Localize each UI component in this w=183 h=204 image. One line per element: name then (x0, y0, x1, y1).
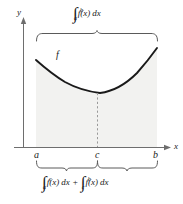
top-integral-expression: ∫ b a f(x)dx (73, 8, 101, 21)
curve-label-f: f (56, 50, 59, 60)
tick-label-c: c (95, 150, 99, 160)
integral-lower-limit-top: a (74, 15, 77, 21)
integral-lower-limit-bottom-first: a (43, 184, 46, 190)
differential-bottom-second: dx (100, 177, 109, 187)
bottom-brace-a-to-c (37, 161, 98, 171)
tick-label-b: b (153, 150, 158, 160)
y-axis-arrowhead (21, 17, 26, 24)
x-axis-label: x (174, 142, 178, 151)
integral-sign-bottom-first: ∫ c a (42, 177, 47, 190)
integral-upper-limit-bottom-first: c (49, 176, 52, 182)
integral-additivity-figure: y x a c b f ∫ b a f(x)dx ∫ c a f(x)dx+∫ … (0, 0, 183, 204)
tick-label-a: a (34, 150, 39, 160)
top-brace-a-to-b (37, 31, 158, 42)
plus-operator: + (73, 177, 78, 187)
bottom-integral-expression: ∫ c a f(x)dx+∫ b c f(x)dx (42, 177, 108, 190)
x-axis-arrowhead (164, 145, 171, 150)
integral-upper-limit-top: b (80, 7, 83, 13)
y-axis-label: y (17, 8, 21, 17)
differential-top: dx (92, 8, 101, 18)
integral-upper-limit-bottom-second: b (88, 176, 91, 182)
integral-lower-limit-bottom-second: c (82, 184, 85, 190)
differential-bottom-first: dx (61, 177, 70, 187)
integral-sign-bottom-second: ∫ b c (81, 177, 86, 190)
shaded-area-under-curve (36, 48, 157, 148)
figure-canvas (0, 0, 183, 204)
integral-sign-top: ∫ b a (73, 8, 78, 21)
bottom-brace-c-to-b (98, 161, 158, 171)
